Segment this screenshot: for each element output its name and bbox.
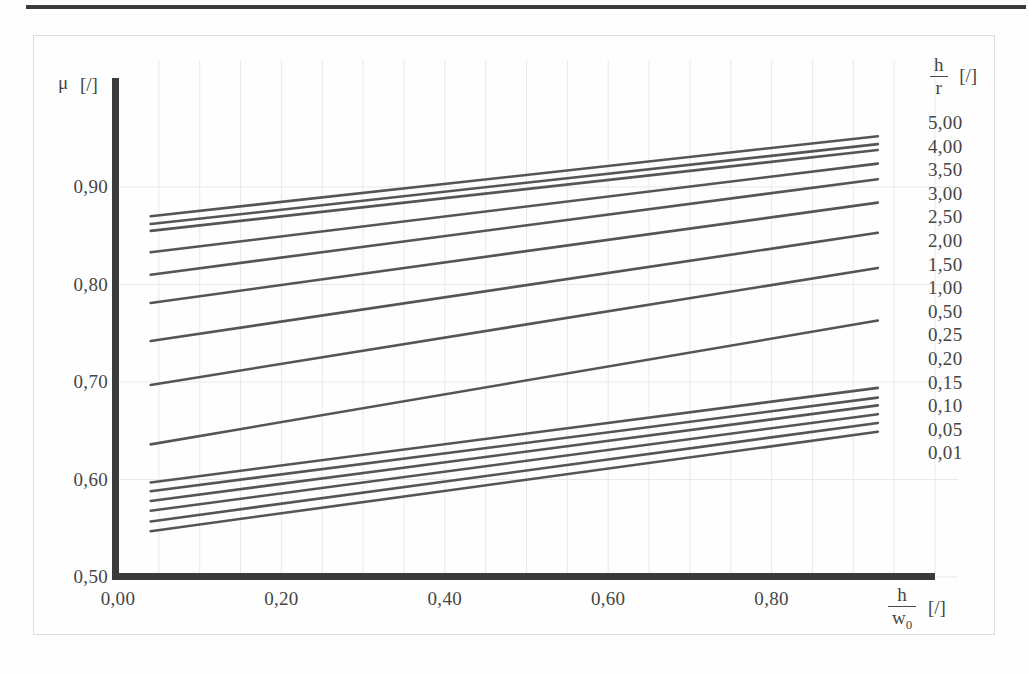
legend-item-2-00: 2,00 bbox=[928, 230, 962, 252]
chart-canvas bbox=[0, 0, 1029, 674]
y-tick-label: 0,90 bbox=[42, 176, 108, 198]
legend-item-3-50: 3,50 bbox=[928, 159, 962, 181]
legend-item-5-00: 5,00 bbox=[928, 112, 962, 134]
x-axis-numerator: h bbox=[888, 585, 916, 607]
y-axis-symbol: μ bbox=[58, 72, 68, 93]
x-tick-label: 0,40 bbox=[405, 588, 485, 610]
x-axis-fraction: h w0 bbox=[888, 585, 916, 631]
legend-fraction: h r bbox=[930, 55, 948, 98]
y-tick-label: 0,50 bbox=[42, 566, 108, 588]
legend-item-0-20: 0,20 bbox=[928, 348, 962, 370]
x-axis-denominator: w0 bbox=[888, 607, 916, 631]
x-tick-label: 0,00 bbox=[78, 588, 158, 610]
curve-lines bbox=[151, 136, 878, 531]
legend-item-0-15: 0,15 bbox=[928, 372, 962, 394]
legend-item-2-50: 2,50 bbox=[928, 206, 962, 228]
legend-denominator: r bbox=[930, 77, 948, 98]
y-axis-unit: [/] bbox=[80, 74, 98, 96]
legend-item-1-00: 1,00 bbox=[928, 277, 962, 299]
legend-item-3-00: 3,00 bbox=[928, 183, 962, 205]
legend-item-0-25: 0,25 bbox=[928, 324, 962, 346]
legend-item-0-05: 0,05 bbox=[928, 419, 962, 441]
x-axis-unit: [/] bbox=[928, 597, 946, 619]
legend-title: h r [/] bbox=[930, 55, 977, 98]
x-axis-title: h w0 [/] bbox=[888, 585, 946, 631]
y-tick-label: 0,60 bbox=[42, 469, 108, 491]
legend-item-4-00: 4,00 bbox=[928, 136, 962, 158]
y-tick-label: 0,80 bbox=[42, 274, 108, 296]
legend-item-1-50: 1,50 bbox=[928, 254, 962, 276]
legend-item-0-10: 0,10 bbox=[928, 395, 962, 417]
legend-item-0-50: 0,50 bbox=[928, 301, 962, 323]
y-tick-label: 0,70 bbox=[42, 371, 108, 393]
legend-unit: [/] bbox=[959, 65, 977, 87]
x-tick-label: 0,80 bbox=[732, 588, 812, 610]
legend-numerator: h bbox=[930, 55, 948, 77]
y-axis-title: μ [/] bbox=[58, 72, 98, 96]
x-tick-label: 0,60 bbox=[568, 588, 648, 610]
legend-item-0-01: 0,01 bbox=[928, 442, 962, 464]
x-tick-label: 0,20 bbox=[241, 588, 321, 610]
